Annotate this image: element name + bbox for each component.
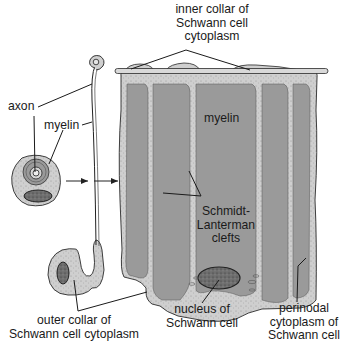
label-line: perinodal xyxy=(264,302,344,316)
schwann-cell-diagram xyxy=(0,0,347,343)
label-nucleus: nucleus of Schwann cell xyxy=(158,303,246,330)
cross-section-axon xyxy=(33,170,39,176)
schwann-nucleus xyxy=(198,267,240,289)
label-line: cytoplasm xyxy=(150,30,274,44)
label-myelin-small: myelin xyxy=(44,119,79,133)
unrolling-cell-body xyxy=(48,240,104,295)
axon-small xyxy=(93,59,99,65)
unrolling-cell-nucleus xyxy=(57,262,69,284)
label-line: Lanterman xyxy=(196,219,256,233)
cross-section-schwann-cell xyxy=(12,155,61,206)
leader-axon xyxy=(38,84,92,107)
label-line: inner collar of xyxy=(150,3,274,17)
label-line: clefts xyxy=(196,232,256,246)
label-line: Schmidt- xyxy=(196,205,256,219)
myelin-column-4 xyxy=(262,84,288,303)
myelin-column-1 xyxy=(126,84,148,278)
label-line: Schwann cell cytoplasm xyxy=(4,328,144,342)
label-myelin-main: myelin xyxy=(204,112,239,126)
label-line: cytoplasm of xyxy=(264,316,344,330)
label-line: nucleus of xyxy=(158,303,246,317)
label-inner-collar: inner collar of Schwann cell cytoplasm xyxy=(150,3,274,44)
label-line: Schwann cell xyxy=(264,329,344,343)
myelin-column-5 xyxy=(293,84,310,298)
cross-section-nucleus xyxy=(24,190,52,202)
axon-rod xyxy=(115,69,328,74)
label-perinodal: perinodal cytoplasm of Schwann cell xyxy=(264,302,344,343)
unrolled-schwann-sheet xyxy=(115,63,328,321)
label-line: Schwann cell xyxy=(150,17,274,31)
label-outer-collar: outer collar of Schwann cell cytoplasm xyxy=(4,314,144,341)
label-line: outer collar of xyxy=(4,314,144,328)
label-line: Schwann cell xyxy=(158,317,246,331)
myelin-column-2 xyxy=(153,84,190,300)
label-axon: axon xyxy=(8,100,34,114)
leader-myelin-unroll xyxy=(82,122,92,125)
label-schmidt-lanterman: Schmidt- Lanterman clefts xyxy=(196,205,256,246)
leader-myelin-small xyxy=(49,130,63,164)
mesaxon-membrane xyxy=(92,66,96,245)
